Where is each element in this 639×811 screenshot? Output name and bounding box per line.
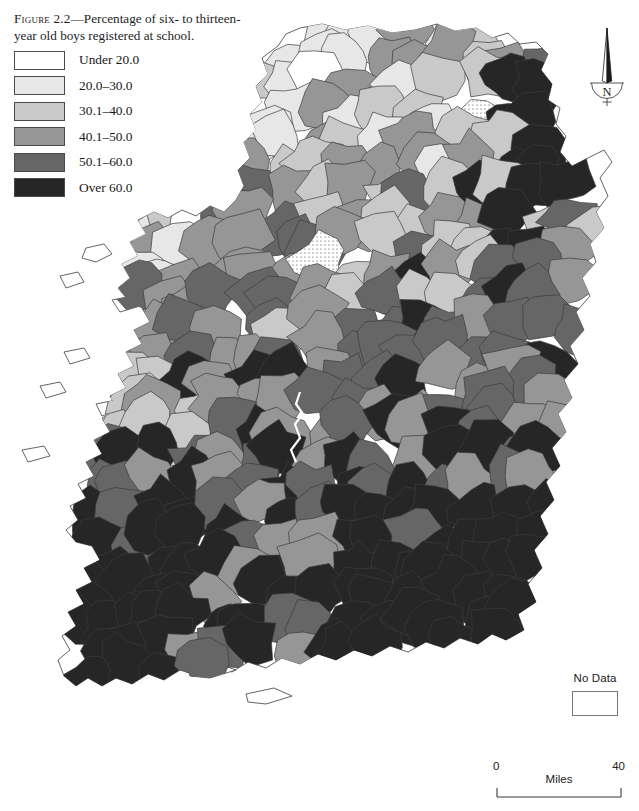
legend-label-30-40: 30.1–40.0 <box>79 103 133 119</box>
no-data-label: No Data <box>560 672 630 684</box>
north-arrow-icon: N <box>584 26 630 110</box>
legend-item: 40.1–50.0 <box>14 125 224 149</box>
north-arrow: N <box>584 26 630 110</box>
legend-swatch-40-50 <box>14 127 65 146</box>
legend-label-under-20: Under 20.0 <box>79 52 139 68</box>
figure-number: Figure 2.2 <box>14 11 71 26</box>
legend-swatch-under-20 <box>14 51 65 70</box>
scale-max-label: 40 <box>612 760 625 772</box>
figure-caption: Figure 2.2—Percentage of six- to thirtee… <box>14 10 242 45</box>
scale-bar: 0 40 Miles <box>489 760 629 800</box>
legend-label-20-30: 20.0–30.0 <box>79 78 133 94</box>
legend-item: Under 20.0 <box>14 48 224 72</box>
legend-label-50-60: 50.1–60.0 <box>79 154 133 170</box>
scale-bar-line <box>489 786 629 800</box>
legend-item: 30.1–40.0 <box>14 99 224 123</box>
legend-swatch-over-60 <box>14 178 65 197</box>
legend-swatch-20-30 <box>14 76 65 95</box>
legend-swatch-30-40 <box>14 102 65 121</box>
legend: Under 20.0 20.0–30.0 30.1–40.0 40.1–50.0… <box>14 48 224 201</box>
legend-swatch-50-60 <box>14 153 65 172</box>
legend-item: Over 60.0 <box>14 176 224 200</box>
legend-label-40-50: 40.1–50.0 <box>79 129 133 145</box>
scale-unit-label: Miles <box>489 773 629 785</box>
legend-item: 20.0–30.0 <box>14 74 224 98</box>
no-data-swatch <box>572 691 618 716</box>
legend-item: 50.1–60.0 <box>14 150 224 174</box>
legend-label-over-60: Over 60.0 <box>79 180 133 196</box>
north-arrow-label: N <box>602 85 611 99</box>
scale-min-label: 0 <box>493 760 499 772</box>
no-data-key: No Data <box>560 672 630 716</box>
